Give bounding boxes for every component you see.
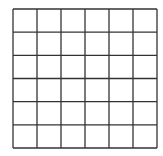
grid-diagram [0,0,163,156]
